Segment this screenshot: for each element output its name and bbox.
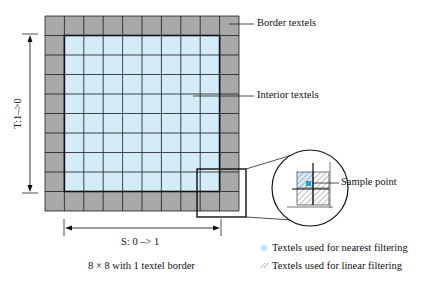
label-s-axis: S: 0 –> 1: [121, 236, 159, 247]
arrow-right-icon: [213, 226, 220, 231]
label-sample-point: Sample point: [341, 176, 397, 187]
hatch-icon: [261, 263, 268, 268]
legend-linear: Textels used for linear filtering: [272, 260, 402, 271]
caption: 8 × 8 with 1 textel border: [88, 260, 195, 271]
arrow-left-icon: [65, 226, 72, 231]
legend-nearest: Textels used for nearest filtering: [272, 242, 408, 253]
sample-point-dot: [306, 181, 311, 186]
blue-square-icon: [261, 245, 267, 251]
label-t-axis: T:1–>0: [12, 94, 23, 134]
arrow-up-icon: [28, 35, 33, 42]
label-interior-textels: Interior textels: [257, 89, 319, 100]
texture-diagram: [0, 0, 422, 283]
arrow-down-icon: [28, 185, 33, 192]
label-border-textels: Border textels: [257, 17, 316, 28]
zoom-circle: [272, 150, 348, 226]
